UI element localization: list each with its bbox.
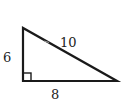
triangle-diagram: 6 10 8 [0, 0, 126, 100]
triangle-figure [0, 0, 126, 100]
right-angle-marker-icon [23, 73, 31, 81]
vertical-leg-label: 6 [3, 51, 11, 64]
horizontal-leg-label: 8 [51, 88, 59, 100]
hypotenuse-label: 10 [60, 36, 77, 49]
